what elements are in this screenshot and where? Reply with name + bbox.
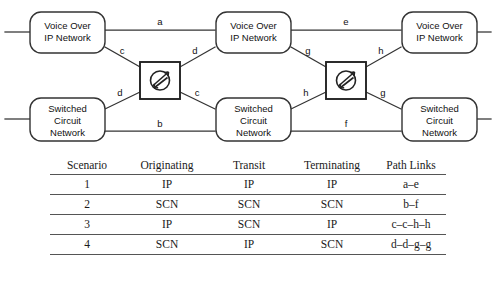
node-vo-ip-right-label-2: IP Network	[416, 32, 463, 43]
table-row: 2 SCN SCN SCN b–f	[50, 194, 446, 214]
cell-transit: SCN	[210, 214, 288, 234]
node-scn-right-label-3: Network	[422, 127, 457, 138]
network-topology-diagram: Voice Over IP Network Switched Circuit N…	[0, 0, 496, 155]
scenario-table-container: Scenario Originating Transit Terminating…	[0, 155, 496, 284]
cell-terminating: SCN	[288, 234, 376, 254]
cell-transit: IP	[210, 174, 288, 194]
node-vo-ip-left-label-1: Voice Over	[44, 20, 90, 31]
cell-scenario: 4	[50, 234, 124, 254]
node-vo-ip-left-label-2: IP Network	[44, 32, 91, 43]
link-label-d2: d	[117, 87, 122, 98]
node-scn-left-label-3: Network	[50, 127, 85, 138]
cell-scenario: 1	[50, 174, 124, 194]
link-label-b: b	[157, 118, 162, 129]
scenario-table: Scenario Originating Transit Terminating…	[50, 155, 446, 255]
network-boxes: Voice Over IP Network Switched Circuit N…	[30, 12, 477, 141]
topology-svg: Voice Over IP Network Switched Circuit N…	[0, 0, 496, 155]
cell-terminating: SCN	[288, 194, 376, 214]
link-label-h2: h	[303, 87, 308, 98]
node-vo-ip-mid-label-1: Voice Over	[230, 20, 276, 31]
column-header-path-links: Path Links	[376, 155, 446, 174]
cell-originating: SCN	[124, 234, 210, 254]
link-label-g2: g	[380, 87, 385, 98]
node-vo-ip-mid-label-2: IP Network	[230, 32, 277, 43]
link-label-h1: h	[378, 45, 383, 56]
cell-originating: IP	[124, 214, 210, 234]
link-label-g1: g	[305, 45, 310, 56]
cell-path-links: c–c–h–h	[376, 214, 446, 234]
table-row: 3 IP SCN IP c–c–h–h	[50, 214, 446, 234]
link-label-e: e	[343, 16, 348, 27]
cell-scenario: 2	[50, 194, 124, 214]
cell-originating: SCN	[124, 194, 210, 214]
table-row: 4 SCN IP SCN d–d–g–g	[50, 234, 446, 254]
node-scn-left-label-1: Switched	[48, 103, 87, 114]
cell-transit: SCN	[210, 194, 288, 214]
gateway-2	[326, 62, 366, 99]
node-scn-mid-label-1: Switched	[234, 103, 273, 114]
cell-terminating: IP	[288, 174, 376, 194]
cell-path-links: a–e	[376, 174, 446, 194]
cell-scenario: 3	[50, 214, 124, 234]
link-label-c1: c	[120, 45, 125, 56]
node-scn-right-label-1: Switched	[420, 103, 459, 114]
column-header-terminating: Terminating	[288, 155, 376, 174]
gateway-1	[140, 62, 180, 99]
link-label-f: f	[345, 118, 348, 129]
node-scn-right-label-2: Circuit	[426, 115, 453, 126]
column-header-transit: Transit	[210, 155, 288, 174]
cell-transit: IP	[210, 234, 288, 254]
link-label-d1: d	[192, 45, 197, 56]
cell-path-links: d–d–g–g	[376, 234, 446, 254]
node-scn-left-label-2: Circuit	[54, 115, 81, 126]
cell-originating: IP	[124, 174, 210, 194]
node-scn-mid-label-3: Network	[236, 127, 271, 138]
table-header-row: Scenario Originating Transit Terminating…	[50, 155, 446, 174]
column-header-originating: Originating	[124, 155, 210, 174]
link-label-a: a	[157, 16, 163, 27]
table-row: 1 IP IP IP a–e	[50, 174, 446, 194]
cell-path-links: b–f	[376, 194, 446, 214]
cell-terminating: IP	[288, 214, 376, 234]
node-scn-mid-label-2: Circuit	[240, 115, 267, 126]
link-label-c2: c	[195, 87, 200, 98]
column-header-scenario: Scenario	[50, 155, 124, 174]
node-vo-ip-right-label-1: Voice Over	[416, 20, 462, 31]
